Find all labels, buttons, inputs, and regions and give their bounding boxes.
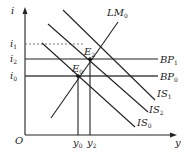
label-is0: IS0 bbox=[136, 117, 152, 129]
label-bp0: BP0 bbox=[159, 71, 178, 83]
tick-i1: i1 bbox=[10, 38, 17, 50]
tick-i0: i0 bbox=[10, 70, 17, 82]
label-e2: E2 bbox=[83, 46, 95, 58]
label-is2: IS2 bbox=[148, 104, 164, 116]
label-e0: E0 bbox=[71, 63, 83, 75]
tick-y0: y0 bbox=[72, 137, 83, 149]
label-bp1: BP1 bbox=[159, 54, 178, 66]
is2-curve bbox=[48, 24, 148, 112]
is1-curve bbox=[63, 10, 155, 100]
y-axis-label: i bbox=[11, 5, 14, 16]
label-lm0: LM0 bbox=[106, 7, 128, 19]
tick-i2: i2 bbox=[10, 53, 17, 65]
x-axis-label: y bbox=[174, 137, 181, 148]
label-is1: IS1 bbox=[156, 88, 172, 100]
lm0-curve bbox=[51, 22, 118, 118]
is-lm-bp-diagram: i y O i1 i2 i0 y0 y2 E2 E0 LM0 BP1 BP0 I… bbox=[0, 0, 186, 152]
y-axis-arrow-icon bbox=[23, 7, 28, 14]
origin-label: O bbox=[15, 135, 23, 146]
tick-y2: y2 bbox=[86, 137, 97, 149]
